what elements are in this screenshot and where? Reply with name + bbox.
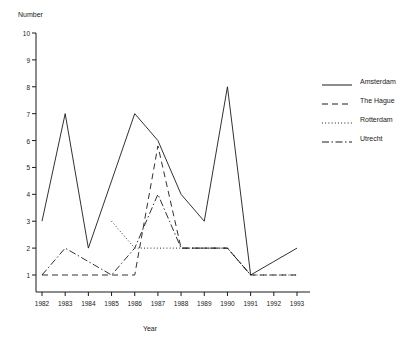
axis-lines: [36, 33, 310, 292]
series-line-amsterdam: [42, 87, 297, 275]
legend-label-rotterdam: Rotterdam: [360, 116, 393, 123]
legend-label-amsterdam: Amsterdam: [360, 78, 396, 85]
series-lines: [42, 87, 297, 275]
legend-swatch-rotterdam: [322, 122, 352, 124]
legend-swatch-amsterdam: [322, 84, 352, 86]
legend-label-the-hague: The Hague: [360, 97, 395, 104]
legend-swatch-the-hague: [322, 103, 352, 105]
series-line-utrecht: [42, 194, 251, 275]
line-chart: Number Year 12345678910 1982198319841985…: [0, 0, 408, 347]
legend-label-utrecht: Utrecht: [360, 135, 383, 142]
series-line-the-hague: [42, 146, 297, 275]
plot-area: [0, 0, 408, 347]
axis-tick-marks: [32, 33, 297, 296]
legend-swatch-utrecht: [322, 141, 352, 143]
